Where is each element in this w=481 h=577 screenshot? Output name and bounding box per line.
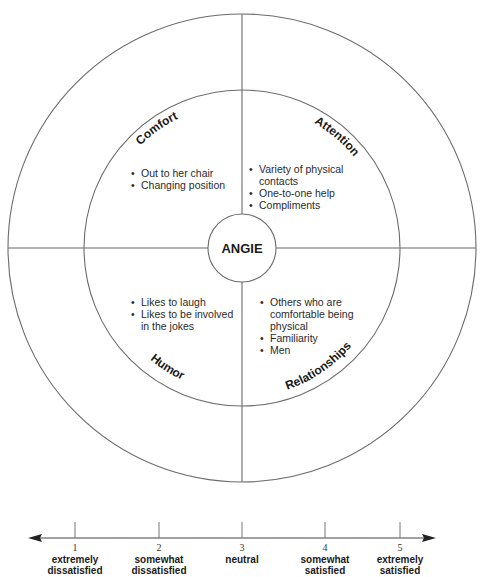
humor-list: Likes to laugh Likes to be involved in t…	[131, 296, 241, 332]
scale-label-line1-3: neutral	[225, 554, 259, 565]
scale-label-line1-5: extremely	[377, 554, 424, 565]
attention-list: Variety of physical contacts One-to-one …	[249, 163, 359, 211]
scale-number-1: 1	[73, 542, 78, 553]
list-item: Variety of physical contacts	[249, 163, 359, 187]
list-item: Others who are comfortable being physica…	[260, 296, 392, 332]
list-item: Likes to laugh	[131, 296, 241, 308]
list-item: Familiarity	[260, 332, 392, 344]
satisfaction-scale: 1extremelydissatisfied2somewhatdissatisf…	[28, 522, 436, 576]
scale-right-arrow-icon	[422, 534, 436, 542]
list-item: Out to her chair	[131, 167, 241, 179]
satisfaction-diagram: ANGIE Comfort Attention Humor Relationsh…	[0, 0, 481, 577]
list-item: Likes to be involved in the jokes	[131, 308, 241, 332]
scale-number-5: 5	[398, 542, 403, 553]
list-item: Men	[260, 344, 392, 356]
scale-left-arrow-icon	[28, 534, 42, 542]
scale-label-line2-5: satisfied	[380, 565, 421, 576]
scale-label-line2-2: dissatisfied	[131, 565, 186, 576]
scale-label-line2-1: dissatisfied	[47, 565, 102, 576]
scale-number-3: 3	[240, 542, 245, 553]
list-item: Changing position	[131, 179, 241, 191]
scale-label-line1-2: somewhat	[135, 554, 185, 565]
scale-label-line2-4: satisfied	[305, 565, 346, 576]
relationships-list: Others who are comfortable being physica…	[260, 296, 392, 356]
quadrant-title-attention: Attention	[312, 113, 362, 158]
list-item: One-to-one help	[249, 187, 359, 199]
center-label: ANGIE	[221, 241, 263, 256]
scale-label-line1-1: extremely	[52, 554, 99, 565]
comfort-list: Out to her chair Changing position	[131, 167, 241, 191]
list-item: Compliments	[249, 199, 359, 211]
scale-number-4: 4	[323, 542, 328, 553]
quadrant-title-humor: Humor	[148, 351, 187, 383]
scale-label-line1-4: somewhat	[301, 554, 351, 565]
scale-number-2: 2	[157, 542, 162, 553]
